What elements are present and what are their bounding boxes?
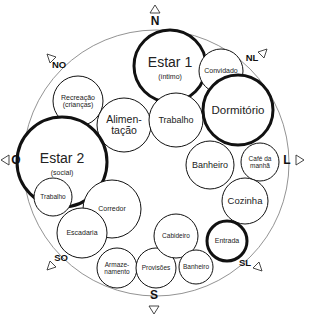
room-label: Estar 2 [40,150,85,166]
room-banheiro-sul: Banheiro [179,250,213,284]
compass-label: L [283,153,290,167]
compass-n: N [150,5,160,28]
room-label: Dormitório [211,104,264,116]
room-label: Entrada [215,237,240,244]
compass-label: N [151,14,160,28]
room-estar1: Estar 1(íntimo) [134,30,206,102]
compass-label: SO [54,252,68,263]
compass-so: SO [47,252,68,270]
compass-label: SL [239,257,251,268]
compass-s: S [149,288,159,314]
room-label: Café da [249,155,272,162]
direction-arrow-icon [1,155,9,165]
room-label: Banheiro [192,160,228,170]
direction-arrow-icon [253,262,262,271]
compass-no: NO [47,54,66,70]
room-label: Corredor [98,205,126,212]
room-label: Alimen- [106,113,142,125]
room-label: Provisões [142,264,171,271]
room-label: (crianças) [63,101,94,109]
compass-l: L [283,153,304,167]
room-label: Cozinha [228,195,264,206]
room-label: namento [104,268,130,275]
room-label: Cabideiro [162,232,190,239]
room-cafe: Café damanhã [241,143,279,181]
direction-arrow-icon [258,49,267,58]
room-label: Trabalho [158,115,193,125]
compass-label: NO [52,59,66,70]
room-cozinha: Cozinha [222,178,268,224]
room-label: Estar 1 [148,54,193,70]
direction-arrow-icon [296,155,304,165]
room-label: Convidado [204,67,238,74]
room-label: tação [111,124,137,136]
room-label: manhã [250,162,270,169]
room-label: Armaze- [105,261,130,268]
room-armazenamento: Armaze-namento [97,248,137,288]
room-sublabel: (íntimo) [158,73,182,81]
room-trabalho-norte: Trabalho [149,93,203,147]
room-label: Escadaria [66,229,97,236]
room-escadaria: Escadaria [57,208,107,258]
room-banheiro-leste: Banheiro [186,141,234,189]
compass-label: NL [246,52,259,63]
compass-label: S [150,288,158,302]
direction-arrow-icon [149,306,159,314]
compass-sl: SL [239,257,262,271]
room-trabalho-oeste: Trabalho [34,178,72,216]
compass-label: O [11,153,20,167]
room-sublabel: (social) [51,169,74,177]
room-dormitorio: Dormitório [203,75,273,145]
bubble-diagram: Estar 1(íntimo)ConvidadoRecreação(crianç… [0,0,311,319]
compass-nl: NL [246,49,267,63]
direction-arrow-icon [150,5,160,13]
room-entrada: Entrada [207,221,247,261]
compass-o: O [1,153,21,167]
room-label: Banheiro [183,263,209,270]
room-alimentacao: Alimen-tação [97,98,151,152]
room-label: Trabalho [40,193,66,200]
